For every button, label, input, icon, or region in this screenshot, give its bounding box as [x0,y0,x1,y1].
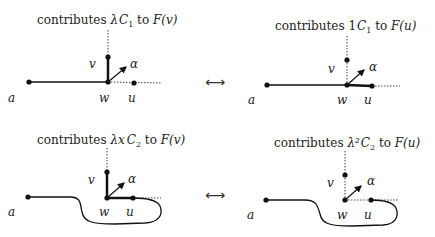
vertex-v [105,54,110,59]
caption-bottom-left: contributes λxC2 to F(v) [37,133,186,149]
arrow-alpha [345,186,361,200]
vertex-u [368,197,373,202]
panel-top-left: contributes λC1 to F(v) a v w u α [8,13,178,105]
correspondence-arrow-top: ⟷ [205,74,225,90]
vertex-w [344,82,349,87]
label-alpha: α [367,174,375,188]
curved-path-a-u [28,197,161,224]
label-u: u [126,205,134,219]
arrow-alpha [108,67,126,82]
vertex-a [264,82,269,87]
label-u: u [364,208,372,222]
vertex-a [263,197,268,202]
caption-bottom-right: contributes λ²C2 to F(u) [274,136,421,152]
vertex-w [104,195,109,200]
label-w: w [337,93,348,107]
vertex-u [130,195,135,200]
vertex-u [131,80,136,85]
vertex-v [344,57,349,62]
label-w: w [99,91,110,105]
label-v: v [88,173,95,187]
caption-top-left: contributes λC1 to F(v) [37,13,178,29]
label-u: u [128,91,136,105]
label-alpha: α [128,172,136,186]
vertex-w [342,197,347,202]
arrow-alpha [347,70,364,85]
thick-edge-w-u [347,85,372,86]
label-a: a [8,91,15,105]
vertex-w [105,79,110,84]
vertex-v [104,169,109,174]
caption-top-right: contributes 1C1 to F(u) [275,19,417,35]
label-w: w [337,208,348,222]
panel-bottom-right: contributes λ²C2 to F(u) a v w u α [247,136,421,226]
panel-top-right: contributes 1C1 to F(u) a v w u α [248,19,417,107]
vertex-u [369,83,374,88]
label-a: a [8,205,15,219]
label-alpha: α [369,60,377,74]
label-a: a [247,208,254,222]
panel-bottom-left: contributes λxC2 to F(v) a v w u α [8,133,186,224]
label-alpha: α [130,57,138,71]
vertex-a [25,194,30,199]
arrow-alpha [107,183,124,198]
diagram: contributes λC1 to F(v) a v w u α ⟷ ⟷ co… [0,0,435,237]
vertex-a [26,79,31,84]
label-u: u [364,93,372,107]
label-v: v [89,57,96,71]
label-a: a [248,93,255,107]
curved-path-a-u [266,200,397,226]
label-v: v [327,176,334,190]
label-w: w [99,205,110,219]
correspondence-arrow-bottom: ⟷ [205,187,225,203]
vertex-v [342,172,347,177]
label-v: v [328,62,335,76]
